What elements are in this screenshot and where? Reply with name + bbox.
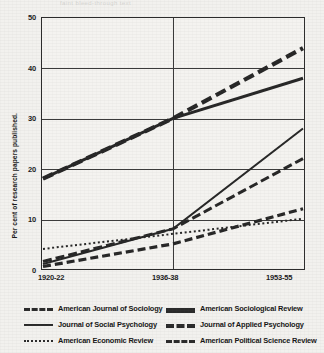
legend-column-left: American Journal of Sociology Journal of… bbox=[24, 300, 169, 348]
series-lines bbox=[42, 18, 304, 269]
legend-item-american-political-science-review[interactable]: American Political Science Review bbox=[166, 332, 316, 348]
x-tick-label-1920-22: 1920-22 bbox=[38, 273, 64, 282]
series-line-american-economic-review bbox=[43, 219, 303, 249]
legend-item-american-sociological-review[interactable]: American Sociological Review bbox=[166, 300, 316, 316]
line-chart: 50 40 30 20 10 0 Per cent of research pa… bbox=[0, 0, 324, 353]
legend-swatch-dotted-icon bbox=[24, 335, 53, 345]
legend-swatch-solid-icon bbox=[24, 319, 53, 329]
legend-label-american-economic-review: American Economic Review bbox=[58, 336, 153, 345]
legend-swatch-dash-dot-icon bbox=[166, 335, 195, 345]
legend-label-american-political-science-review: American Political Science Review bbox=[200, 336, 317, 345]
legend-label-american-journal-of-sociology: American Journal of Sociology bbox=[58, 304, 162, 313]
series-line-journal-of-applied-psychology bbox=[43, 209, 303, 267]
y-tick-label-0: 0 bbox=[14, 266, 36, 275]
legend-label-american-sociological-review: American Sociological Review bbox=[200, 304, 303, 313]
series-line-american-political-science-review bbox=[43, 159, 303, 262]
x-tick-label-1953-55: 1953-55 bbox=[266, 273, 292, 282]
legend-item-journal-of-social-psychology[interactable]: Journal of Social Psychology bbox=[24, 316, 169, 332]
legend-item-american-economic-review[interactable]: American Economic Review bbox=[24, 332, 169, 348]
chart-legend: American Journal of Sociology Journal of… bbox=[24, 300, 312, 348]
legend-swatch-thick-solid-icon bbox=[166, 303, 195, 313]
legend-item-american-journal-of-sociology[interactable]: American Journal of Sociology bbox=[24, 300, 169, 316]
x-tick-label-1936-38: 1936-38 bbox=[152, 273, 178, 282]
legend-item-journal-of-applied-psychology[interactable]: Journal of Applied Psychology bbox=[166, 316, 316, 332]
legend-column-right: American Sociological Review Journal of … bbox=[166, 300, 316, 348]
legend-swatch-medium-dash-icon bbox=[166, 319, 195, 329]
legend-swatch-long-dash-icon bbox=[24, 303, 53, 313]
y-tick-label-40: 40 bbox=[14, 64, 36, 73]
plot-area bbox=[41, 17, 305, 270]
legend-label-journal-of-social-psychology: Journal of Social Psychology bbox=[58, 320, 157, 329]
y-tick-label-50: 50 bbox=[14, 13, 36, 22]
legend-label-journal-of-applied-psychology: Journal of Applied Psychology bbox=[200, 320, 304, 329]
series-line-american-sociological-review bbox=[43, 78, 303, 178]
y-axis-title: Per cent of research papers published. bbox=[11, 119, 18, 239]
